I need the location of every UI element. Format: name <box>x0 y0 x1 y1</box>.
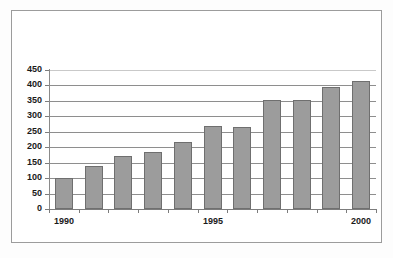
x-tick-mark <box>346 209 347 213</box>
x-tick-mark <box>257 209 258 213</box>
bar <box>114 156 132 209</box>
x-tick-mark <box>138 209 139 213</box>
x-axis-line <box>49 209 377 210</box>
bar-series <box>49 70 376 209</box>
x-tick-mark <box>287 209 288 213</box>
bar <box>204 126 222 209</box>
y-tick-label: 350 <box>14 96 42 105</box>
chart-figure: 050100150200250300350400450 199019952000 <box>0 0 393 258</box>
bar <box>174 142 192 209</box>
y-tick-label: 200 <box>14 142 42 151</box>
x-tick-mark <box>108 209 109 213</box>
x-tick-mark <box>168 209 169 213</box>
x-tick-label: 1990 <box>44 216 84 227</box>
bar <box>293 100 311 209</box>
bar <box>85 166 103 209</box>
y-tick-label: 50 <box>14 189 42 198</box>
x-tick-mark <box>79 209 80 213</box>
bar <box>322 87 340 209</box>
x-tick-mark <box>227 209 228 213</box>
y-axis-labels: 050100150200250300350400450 <box>12 0 42 258</box>
bar <box>233 127 251 209</box>
bar <box>263 100 281 209</box>
x-tick-mark <box>376 209 377 213</box>
y-tick-label: 150 <box>14 158 42 167</box>
y-tick-label: 300 <box>14 111 42 120</box>
x-tick-mark <box>49 209 50 213</box>
x-tick-label: 1995 <box>193 216 233 227</box>
x-tick-label: 2000 <box>341 216 381 227</box>
y-tick-label: 100 <box>14 173 42 182</box>
x-tick-mark <box>317 209 318 213</box>
bar <box>55 178 73 209</box>
y-tick-label: 400 <box>14 80 42 89</box>
y-tick-label: 250 <box>14 127 42 136</box>
x-tick-mark <box>198 209 199 213</box>
bar <box>144 152 162 209</box>
y-tick-label: 450 <box>14 65 42 74</box>
y-tick-label: 0 <box>14 204 42 213</box>
bar <box>352 81 370 209</box>
